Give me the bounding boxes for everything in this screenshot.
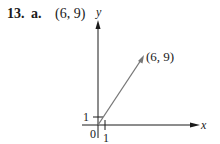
origin-label: 0 (90, 127, 96, 142)
y-tick-label: 1 (83, 110, 89, 125)
vector-diagram (0, 0, 220, 144)
y-axis-label: y (96, 5, 101, 20)
vector-line (98, 60, 141, 125)
vector-tip-label: (6, 9) (146, 49, 174, 65)
y-axis-arrow-icon (96, 20, 101, 29)
x-axis-arrow-icon (190, 123, 200, 128)
x-axis-label: x (201, 118, 206, 133)
x-tick-label: 1 (103, 131, 109, 144)
